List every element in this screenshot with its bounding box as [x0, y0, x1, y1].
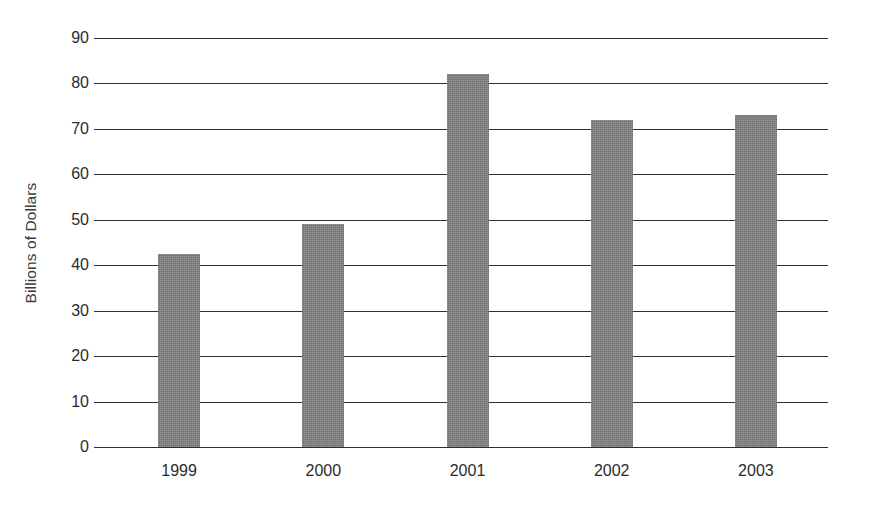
y-axis-tick-label: 20 — [45, 348, 89, 364]
y-axis-tick-label: 80 — [45, 75, 89, 91]
y-axis-tick — [94, 220, 107, 221]
y-axis-tick-label: 10 — [45, 394, 89, 410]
y-axis-tick — [94, 174, 107, 175]
y-axis-tick — [94, 356, 107, 357]
gridline — [107, 38, 828, 39]
y-axis-tick — [94, 311, 107, 312]
x-axis-tick-label: 2000 — [268, 462, 378, 480]
y-axis-tick — [94, 447, 107, 448]
x-axis-tick-label: 1999 — [124, 462, 234, 480]
y-axis-tick-label: 0 — [45, 439, 89, 455]
plot-area: 0102030405060708090 — [107, 38, 828, 447]
y-axis-tick-label: 50 — [45, 212, 89, 228]
y-axis-tick — [94, 265, 107, 266]
y-axis-tick-label: 30 — [45, 303, 89, 319]
bar-chart: Billions of Dollars 0102030405060708090 … — [0, 0, 869, 509]
bar — [735, 115, 777, 447]
bar — [447, 74, 489, 447]
bar — [302, 224, 344, 447]
y-axis-tick-label: 90 — [45, 30, 89, 46]
bar — [158, 254, 200, 447]
y-axis-tick-label: 70 — [45, 121, 89, 137]
y-axis-tick-label: 60 — [45, 166, 89, 182]
bar — [591, 120, 633, 447]
y-axis-tick — [94, 402, 107, 403]
y-axis-title: Billions of Dollars — [20, 26, 42, 461]
axis-baseline — [107, 447, 828, 448]
y-axis-tick — [94, 38, 107, 39]
y-axis-tick — [94, 129, 107, 130]
y-axis-tick-label: 40 — [45, 257, 89, 273]
x-axis-tick-label: 2002 — [557, 462, 667, 480]
x-axis-tick-label: 2001 — [413, 462, 523, 480]
x-axis-tick-label: 2003 — [701, 462, 811, 480]
y-axis-tick — [94, 83, 107, 84]
